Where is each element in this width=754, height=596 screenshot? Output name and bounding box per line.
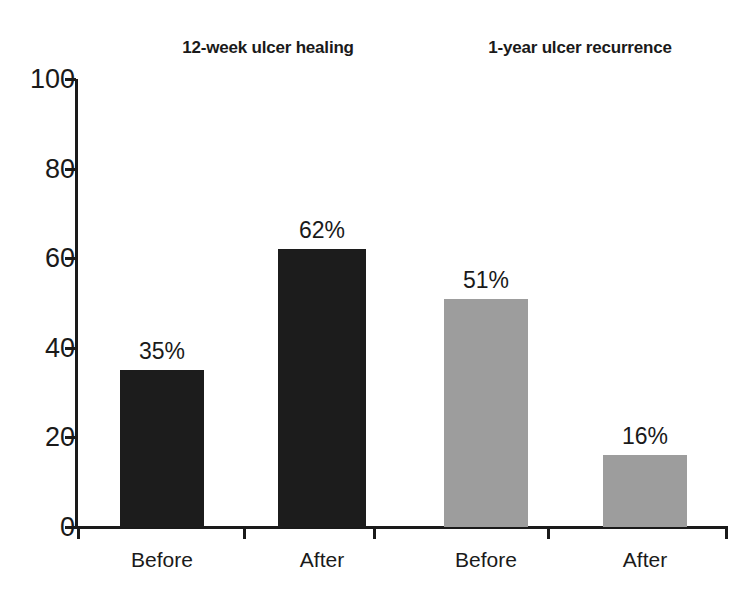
bar-value-label-0: 35%: [139, 338, 185, 365]
bar-2[interactable]: [444, 299, 528, 527]
bar-3[interactable]: [603, 455, 687, 527]
x-tick-label-3: After: [623, 548, 667, 572]
x-tick-mark-4: [725, 526, 728, 539]
x-tick-mark-1: [243, 526, 246, 539]
bar-value-label-1: 62%: [299, 217, 345, 244]
bar-chart-figure: 12-week ulcer healing 1-year ulcer recur…: [0, 0, 754, 596]
bar-value-label-2: 51%: [463, 267, 509, 294]
bar-0[interactable]: [120, 370, 204, 527]
x-tick-label-1: After: [300, 548, 344, 572]
x-tick-mark-0: [77, 526, 80, 539]
x-tick-mark-2: [373, 526, 376, 539]
bar-value-label-3: 16%: [622, 423, 668, 450]
bar-1[interactable]: [278, 249, 366, 527]
plot-area: 35%62%51%16%: [0, 0, 754, 527]
x-tick-label-0: Before: [131, 548, 193, 572]
x-tick-label-2: Before: [455, 548, 517, 572]
x-tick-mark-3: [547, 526, 550, 539]
